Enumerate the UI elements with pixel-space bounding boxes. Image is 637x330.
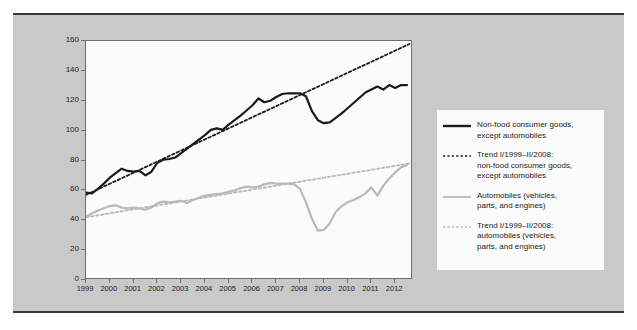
x-axis-tick-mark: [323, 279, 324, 283]
figure-panel: 020406080100120140160 199920002001200220…: [13, 13, 624, 313]
chart-legend: Non-food consumer goods,except automobil…: [437, 110, 604, 270]
x-axis-tick-mark: [85, 279, 86, 283]
x-axis-tick-mark: [204, 279, 205, 283]
x-axis-tick-label: 1999: [72, 285, 98, 293]
y-axis-tick-label: 20: [53, 245, 79, 253]
legend-item: Trend I/1999–II/2008:non-food consumer g…: [443, 150, 596, 182]
x-axis-tick-mark: [133, 279, 134, 283]
y-axis-tick-label: 0: [53, 275, 79, 283]
legend-label: Trend I/1999–II/2008:non-food consumer g…: [477, 150, 572, 182]
y-axis-tick-label: 40: [53, 215, 79, 223]
y-axis-tick-mark: [81, 70, 85, 71]
series-line-2: [86, 165, 407, 231]
y-axis-tick-mark: [81, 130, 85, 131]
x-axis-tick-label: 2002: [143, 285, 169, 293]
legend-swatch-icon: [443, 225, 471, 229]
y-axis-tick-label: 140: [53, 66, 79, 74]
series-line-0: [86, 85, 407, 193]
y-axis-tick-mark: [81, 219, 85, 220]
x-axis-tick-label: 2000: [96, 285, 122, 293]
y-axis-tick-mark: [81, 40, 85, 41]
x-axis-tick-mark: [370, 279, 371, 283]
x-axis-tick-label: 2001: [120, 285, 146, 293]
y-axis-tick-mark: [81, 189, 85, 190]
legend-label: Trend I/1999–II/2008:automobiles (vehicl…: [477, 221, 556, 253]
x-axis-tick-label: 2004: [191, 285, 217, 293]
y-axis-tick-mark: [81, 249, 85, 250]
x-axis-tick-label: 2003: [167, 285, 193, 293]
y-axis-tick-mark: [81, 160, 85, 161]
y-axis-tick-label: 80: [53, 156, 79, 164]
legend-swatch-icon: [443, 124, 471, 128]
x-axis-tick-mark: [394, 279, 395, 283]
x-axis-tick-label: 2010: [334, 285, 360, 293]
x-axis-tick-label: 2011: [357, 285, 383, 293]
y-axis-tick-label: 60: [53, 185, 79, 193]
x-axis-tick-mark: [347, 279, 348, 283]
x-axis-tick-label: 2012: [381, 285, 407, 293]
y-axis-tick-label: 100: [53, 126, 79, 134]
x-axis-tick-label: 2007: [262, 285, 288, 293]
legend-swatch-icon: [443, 195, 471, 199]
x-axis-tick-mark: [180, 279, 181, 283]
legend-label: Non-food consumer goods,except automobil…: [477, 120, 574, 141]
x-axis-tick-label: 2006: [238, 285, 264, 293]
legend-item: Non-food consumer goods,except automobil…: [443, 120, 596, 141]
x-axis-tick-label: 2009: [310, 285, 336, 293]
legend-item: Trend I/1999–II/2008:automobiles (vehicl…: [443, 221, 596, 253]
x-axis-tick-mark: [251, 279, 252, 283]
x-axis-tick-label: 2008: [286, 285, 312, 293]
chart-canvas: [86, 41, 413, 280]
y-axis-tick-mark: [81, 100, 85, 101]
x-axis-tick-mark: [275, 279, 276, 283]
x-axis-tick-mark: [156, 279, 157, 283]
y-axis-tick-label: 120: [53, 96, 79, 104]
legend-swatch-icon: [443, 154, 471, 158]
x-axis-tick-mark: [299, 279, 300, 283]
x-axis-tick-mark: [109, 279, 110, 283]
x-axis-tick-label: 2005: [215, 285, 241, 293]
legend-item: Automobiles (vehicles,parts, and engines…: [443, 191, 596, 212]
y-axis-tick-label: 160: [53, 36, 79, 44]
x-axis-tick-mark: [228, 279, 229, 283]
plot-area: [85, 40, 412, 279]
legend-label: Automobiles (vehicles,parts, and engines…: [477, 191, 557, 212]
